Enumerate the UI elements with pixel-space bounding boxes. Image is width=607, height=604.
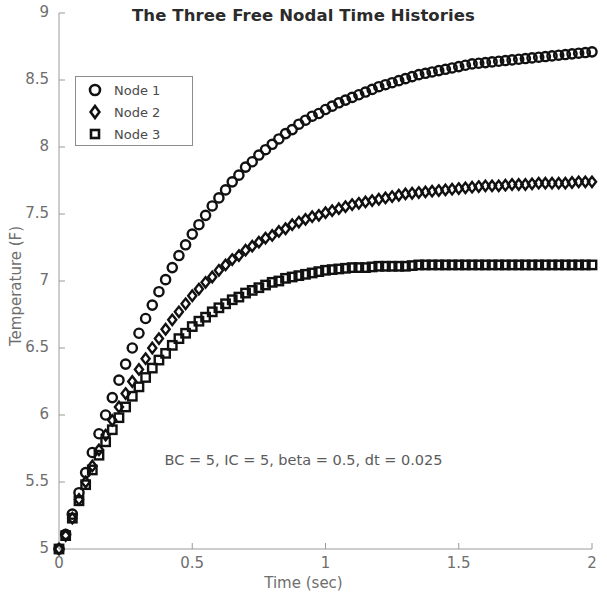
y-tick-label: 6 [0, 405, 49, 423]
x-tick-label: 0.5 [152, 554, 232, 572]
diamond-marker-icon [76, 104, 114, 120]
data-marker [154, 287, 163, 296]
data-marker [134, 329, 143, 338]
data-marker [175, 307, 183, 317]
series-node-3 [55, 261, 596, 553]
data-marker [161, 275, 170, 284]
data-marker [82, 477, 90, 487]
parameters-annotation: BC = 5, IC = 5, beta = 0.5, dt = 0.025 [0, 452, 607, 468]
y-tick-label: 5.5 [0, 472, 49, 490]
data-marker [234, 171, 243, 180]
data-marker [182, 299, 190, 309]
y-tick-label: 9 [0, 3, 49, 21]
data-marker [188, 291, 196, 301]
data-marker [221, 185, 230, 194]
data-marker [168, 315, 176, 325]
data-marker [201, 211, 210, 220]
data-marker [128, 343, 137, 352]
x-tick-label: 1.5 [419, 554, 499, 572]
data-marker [214, 193, 223, 202]
data-marker [188, 230, 197, 239]
legend-label-node-1: Node 1 [114, 83, 160, 98]
legend-item-node-1: Node 1 [76, 79, 194, 101]
x-tick-label: 1 [286, 554, 366, 572]
legend: Node 1 Node 2 Node 3 [75, 76, 193, 146]
data-marker [174, 251, 183, 260]
chart-figure: The Three Free Nodal Time Histories 55.5… [0, 0, 607, 604]
data-marker [162, 324, 170, 334]
x-axis-label: Time (sec) [0, 574, 607, 592]
y-tick-label: 8 [0, 137, 49, 155]
data-marker [155, 333, 163, 343]
legend-item-node-2: Node 2 [76, 101, 194, 123]
data-marker [141, 314, 150, 323]
y-tick-label: 8.5 [0, 70, 49, 88]
data-marker [148, 343, 156, 353]
data-marker [135, 383, 143, 391]
x-tick-label: 2 [552, 554, 607, 572]
legend-item-node-3: Node 3 [76, 123, 194, 145]
data-marker [114, 376, 123, 385]
data-marker [194, 220, 203, 229]
data-marker [121, 359, 130, 368]
data-marker [208, 201, 217, 210]
circle-marker-icon [76, 82, 114, 98]
data-marker [195, 284, 203, 294]
data-marker [142, 354, 150, 364]
legend-label-node-3: Node 3 [114, 127, 160, 142]
series-node-2 [55, 177, 596, 555]
legend-label-node-2: Node 2 [114, 105, 160, 120]
data-marker [108, 393, 117, 402]
data-marker [168, 263, 177, 272]
data-marker [148, 301, 157, 310]
data-marker [181, 240, 190, 249]
square-marker-icon [76, 126, 114, 142]
data-marker [588, 177, 596, 187]
x-tick-label: 0 [19, 554, 99, 572]
y-axis-label: Temperature (F) [7, 186, 25, 386]
data-marker [141, 373, 149, 381]
